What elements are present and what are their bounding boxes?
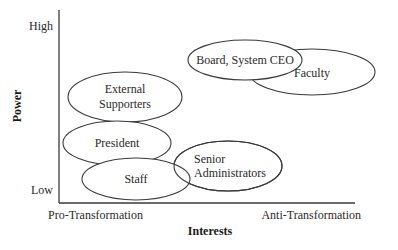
board-system-ceo-label: Board, System CEO xyxy=(196,53,294,67)
x-axis-title: Interests xyxy=(188,224,233,238)
external-supporters-label-line2: Supporters xyxy=(99,97,151,111)
stakeholder-board-system-ceo: Board, System CEO xyxy=(188,40,302,80)
senior-administrators-label-line2: Administrators xyxy=(194,166,266,180)
y-axis-title: Power xyxy=(10,89,24,122)
external-supporters-label-line1: External xyxy=(105,82,146,96)
stakeholder-external-supporters: External Supporters xyxy=(68,72,182,122)
x-axis-high-label: Anti-Transformation xyxy=(261,208,361,222)
x-axis-low-label: Pro-Transformation xyxy=(48,208,143,222)
faculty-label: Faculty xyxy=(294,66,330,80)
staff-label: Staff xyxy=(124,172,147,186)
y-axis-low-label: Low xyxy=(31,183,53,197)
stakeholder-president: President xyxy=(63,121,171,165)
y-axis-high-label: High xyxy=(29,19,53,33)
senior-administrators-label-line1: Senior xyxy=(194,152,225,166)
president-label: President xyxy=(95,136,140,150)
stakeholder-power-interest-diagram: High Low Power Pro-Transformation Anti-T… xyxy=(0,0,398,250)
